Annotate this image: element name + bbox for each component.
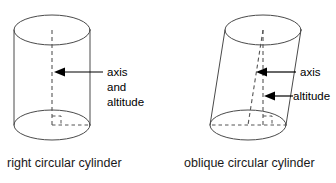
oblique-cylinder-right-angle-marker <box>263 116 272 125</box>
left-cylinder-label-line2: and <box>107 81 126 93</box>
oblique-cylinder-altitude-arrow-head <box>264 92 275 101</box>
left-cylinder-label-line1: axis <box>107 66 128 78</box>
oblique-cylinder-left-wall <box>210 30 225 125</box>
left-cylinder-label-line3: altitude <box>107 96 144 108</box>
oblique-circular-cylinder-group: axis altitude oblique circular cylinder <box>184 15 330 170</box>
left-cylinder-arrow-head <box>54 68 65 77</box>
left-cylinder-right-angle-marker <box>52 116 61 125</box>
oblique-cylinder-caption: oblique circular cylinder <box>184 156 315 170</box>
oblique-cylinder-axis-label: axis <box>300 66 321 78</box>
oblique-cylinder-altitude-label: altitude <box>293 90 330 102</box>
left-cylinder-caption: right circular cylinder <box>7 156 122 170</box>
oblique-cylinder-axis-arrow-head <box>256 68 267 77</box>
oblique-cylinder-right-wall <box>286 30 301 125</box>
right-circular-cylinder-group: axis and altitude right circular cylinde… <box>7 15 144 170</box>
cylinders-figure: axis and altitude right circular cylinde… <box>0 0 336 183</box>
diagram-canvas: axis and altitude right circular cylinde… <box>0 0 336 183</box>
